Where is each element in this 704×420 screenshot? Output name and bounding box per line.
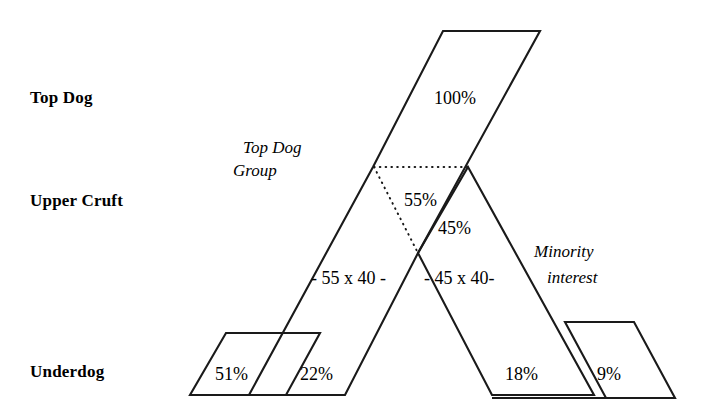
annotation-minority-interest-line2: interest [547,268,599,287]
diagram-canvas: Top Dog Upper Cruft Underdog Top Dog Gro… [0,0,704,420]
band-label-18: 18% [505,364,538,384]
row-label-upper-cruft: Upper Cruft [30,191,123,210]
ownership-structure-diagram: Top Dog Upper Cruft Underdog Top Dog Gro… [0,0,704,420]
row-label-top-dog: Top Dog [30,88,93,107]
top-dog-band-shape [249,31,540,395]
band-label-100: 100% [434,88,476,108]
underdog-9-shape [565,322,675,398]
annotation-minority-interest-line1: Minority [533,242,594,261]
annotation-top-dog-group-line1: Top Dog [243,138,301,157]
band-label-51: 51% [215,364,248,384]
band-label-55: 55% [404,190,437,210]
calc-label-left: - 55 x 40 - [311,268,386,288]
annotation-top-dog-group-line2: Group [233,161,277,180]
band-label-9: 9% [597,364,621,384]
band-label-45: 45% [438,218,471,238]
calc-label-right: - 45 x 40- [424,268,495,288]
row-label-underdog: Underdog [30,362,105,381]
dotted-diagonal-guide [374,167,418,253]
band-label-22: 22% [300,364,333,384]
